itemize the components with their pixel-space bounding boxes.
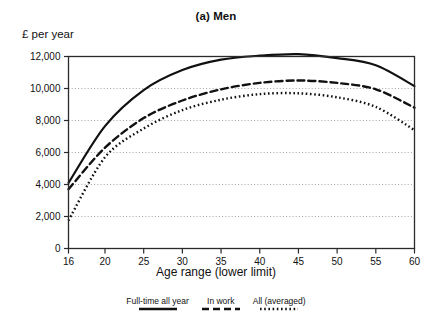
y-tick-label: 6,000 xyxy=(35,147,60,158)
legend-item-label: All (averaged) xyxy=(253,296,306,306)
legend-item-label: In work xyxy=(207,296,234,306)
legend-swatch-dashed xyxy=(198,307,244,311)
y-tick-label: 4,000 xyxy=(35,179,60,190)
legend-item-label: Full-time all year xyxy=(126,296,188,306)
legend-item[interactable]: Full-time all year xyxy=(126,296,188,311)
x-axis-ticks: 16202530354045505560 xyxy=(63,249,421,267)
y-tick-label: 12,000 xyxy=(30,51,61,62)
data-series-group xyxy=(69,54,415,220)
x-axis-label: Age range (lower limit) xyxy=(0,265,432,279)
y-tick-label: 8,000 xyxy=(35,115,60,126)
legend-swatch-dotted xyxy=(256,307,302,311)
y-axis-ticks: 02,0004,0006,0008,00010,00012,000 xyxy=(30,51,69,254)
legend-item[interactable]: All (averaged) xyxy=(253,296,306,311)
y-tick-label: 10,000 xyxy=(30,83,61,94)
series-line xyxy=(69,81,415,190)
gridlines xyxy=(69,57,415,217)
y-tick-label: 2,000 xyxy=(35,211,60,222)
chart-figure: (a) Men £ per year 02,0004,0006,0008,000… xyxy=(0,0,432,324)
legend-swatch-solid xyxy=(135,307,181,311)
legend-item[interactable]: In work xyxy=(198,296,244,311)
series-line xyxy=(69,93,415,220)
series-line xyxy=(69,54,415,183)
y-tick-label: 0 xyxy=(55,243,61,254)
chart-legend: Full-time all yearIn workAll (averaged) xyxy=(0,296,432,311)
